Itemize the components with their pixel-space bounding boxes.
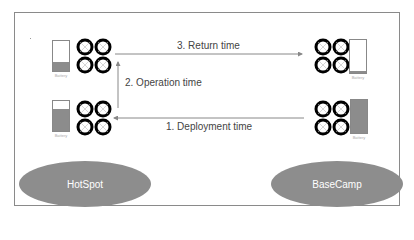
hotspot-label: HotSpot [67, 179, 103, 190]
basecamp-label: BaseCamp [312, 179, 361, 190]
battery-fill [351, 100, 367, 133]
drone-icon [76, 100, 112, 136]
battery-basecamp-bottom [350, 99, 368, 134]
battery-fill [350, 71, 366, 73]
battery-label: Battery [347, 135, 371, 140]
battery-label: Battery [49, 73, 73, 78]
basecamp-ellipse: BaseCamp [271, 161, 403, 207]
drone-icon [76, 38, 112, 74]
battery-basecamp-top [349, 39, 367, 74]
drone-icon [314, 100, 350, 136]
battery-fill [53, 109, 69, 132]
return-time-label: 3. Return time [177, 40, 240, 51]
hotspot-ellipse: HotSpot [19, 161, 151, 207]
battery-fill [53, 62, 69, 71]
operation-time-label: 2. Operation time [125, 77, 202, 88]
battery-label: Battery [346, 75, 370, 80]
drone-icon [314, 38, 350, 74]
battery-label: Battery [49, 133, 73, 138]
deployment-time-label: 1. Deployment time [166, 121, 252, 132]
battery-hotspot-bottom [52, 100, 70, 132]
battery-hotspot-top [52, 40, 70, 72]
